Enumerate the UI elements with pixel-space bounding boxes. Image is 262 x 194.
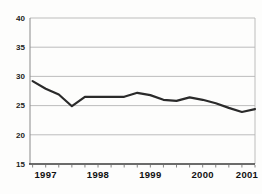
y-axis-tick-label: 40 — [16, 14, 25, 23]
x-axis-tick-label: 1999 — [139, 169, 161, 180]
x-axis-tick-label: 2000 — [192, 169, 214, 180]
data-series-line — [33, 81, 255, 112]
x-axis-tick-label: 1997 — [35, 169, 57, 180]
figure-page: 15202530354019971998199920002001 — [0, 0, 262, 194]
y-axis-tick-label: 20 — [16, 131, 25, 140]
y-axis-tick-label: 15 — [16, 160, 25, 169]
y-axis-tick-label: 35 — [16, 43, 25, 52]
x-axis-tick-label: 2001 — [236, 169, 259, 180]
line-chart-svg: 15202530354019971998199920002001 — [0, 0, 262, 194]
y-axis-tick-label: 30 — [16, 72, 25, 81]
line-chart: 15202530354019971998199920002001 — [0, 0, 262, 194]
y-axis-tick-label: 25 — [16, 101, 25, 110]
x-axis-tick-label: 1998 — [87, 169, 109, 180]
